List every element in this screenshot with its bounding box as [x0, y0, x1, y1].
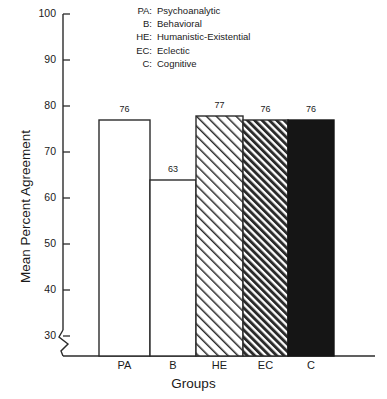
- value-label-b: 63: [150, 164, 196, 174]
- x-tick-label-c: C: [288, 359, 334, 371]
- legend-entry-ec: EC:Eclectic: [128, 44, 250, 57]
- legend-abbr-c: C:: [128, 57, 152, 70]
- y-axis-ticks: [63, 14, 70, 336]
- legend-entry-pa: PA:Psychoanalytic: [128, 4, 250, 17]
- x-tick-label-b: B: [150, 359, 196, 371]
- legend-name-he: Humanistic-Existential: [157, 30, 250, 43]
- y-tick-label-80: 80: [22, 99, 56, 111]
- legend-abbr-pa: PA:: [128, 4, 152, 17]
- y-tick-label-40: 40: [22, 283, 56, 295]
- legend-name-pa: Psychoanalytic: [157, 4, 220, 17]
- bar-c: [288, 120, 334, 356]
- bar-ec: [243, 120, 288, 356]
- legend-name-c: Cognitive: [157, 57, 197, 70]
- legend-name-ec: Eclectic: [157, 44, 190, 57]
- y-tick-label-90: 90: [22, 53, 56, 65]
- x-axis-title: Groups: [0, 376, 387, 391]
- y-tick-label-100: 100: [22, 7, 56, 19]
- value-label-he: 77: [196, 100, 243, 110]
- legend-entry-b: B:Behavioral: [128, 17, 250, 30]
- bar-chart-figure: PA:Psychoanalytic B:Behavioral HE:Humani…: [0, 0, 387, 399]
- value-label-pa: 76: [99, 104, 150, 114]
- legend-abbr-ec: EC:: [128, 44, 152, 57]
- chart-legend: PA:Psychoanalytic B:Behavioral HE:Humani…: [128, 4, 250, 70]
- y-axis-title: Mean Percent Agreement: [18, 130, 33, 283]
- legend-entry-c: C:Cognitive: [128, 57, 250, 70]
- legend-abbr-he: HE:: [128, 30, 152, 43]
- x-tick-label-he: HE: [196, 359, 243, 371]
- y-axis-break-mark: [59, 330, 68, 356]
- legend-name-b: Behavioral: [157, 17, 202, 30]
- y-tick-label-30: 30: [22, 329, 56, 341]
- legend-abbr-b: B:: [128, 17, 152, 30]
- legend-entry-he: HE:Humanistic-Existential: [128, 30, 250, 43]
- value-label-ec: 76: [243, 104, 288, 114]
- x-tick-label-pa: PA: [99, 359, 150, 371]
- value-label-c: 76: [288, 104, 334, 114]
- bar-b: [150, 180, 196, 356]
- bar-pa: [99, 120, 150, 356]
- bar-he: [196, 116, 243, 356]
- x-tick-label-ec: EC: [243, 359, 288, 371]
